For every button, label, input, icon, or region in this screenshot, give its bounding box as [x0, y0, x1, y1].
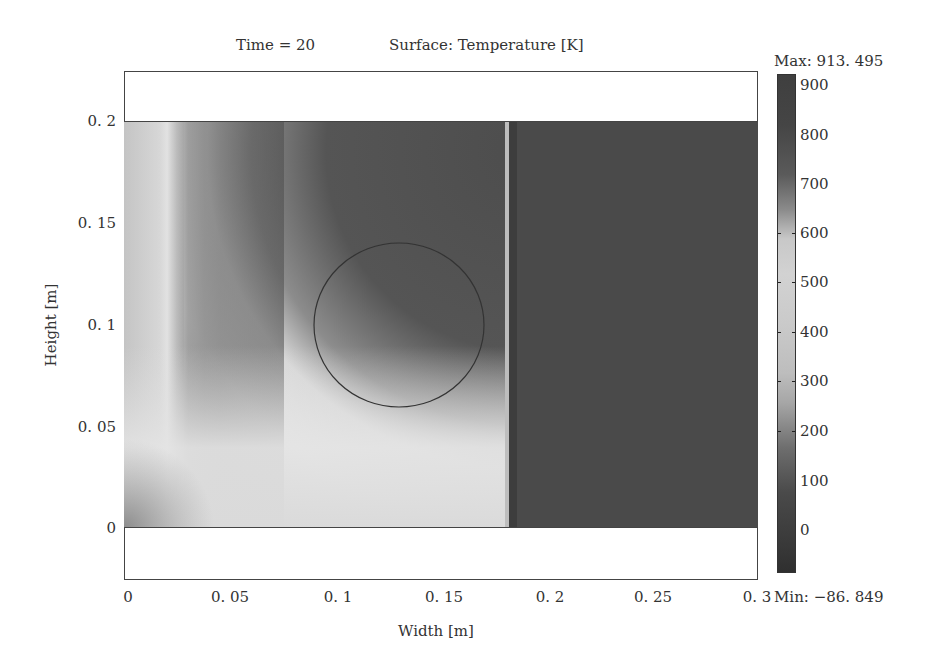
- colorbar-tick-mark: [792, 233, 795, 234]
- colorbar-tick-mark: [792, 381, 795, 382]
- x-axis-label: Width [m]: [398, 622, 474, 640]
- colorbar-tick-mark: [778, 282, 781, 283]
- colorbar-tick-mark: [778, 332, 781, 333]
- colorbar-tick-mark: [778, 381, 781, 382]
- colorbar-tick: 100: [800, 472, 829, 490]
- surface-label: Surface: Temperature [K]: [389, 36, 584, 54]
- colorbar-min-label: Min: −86. 849: [774, 588, 883, 606]
- y-axis-label: Height [m]: [42, 270, 60, 380]
- x-tick: 0: [123, 588, 133, 606]
- y-tick: 0. 2: [46, 112, 116, 130]
- y-tick: 0: [46, 519, 116, 537]
- colorbar-tick-mark: [792, 431, 795, 432]
- colorbar-tick: 500: [800, 273, 829, 291]
- colorbar: [777, 74, 796, 573]
- colorbar-tick-mark: [792, 282, 795, 283]
- colorbar-tick: 200: [800, 422, 829, 440]
- colorbar-tick: 800: [800, 126, 829, 144]
- colorbar-tick-mark: [778, 431, 781, 432]
- x-tick: 0. 3: [743, 588, 772, 606]
- colorbar-tick-mark: [792, 332, 795, 333]
- colorbar-tick: 0: [800, 521, 810, 539]
- colorbar-tick: 400: [800, 323, 829, 341]
- x-tick: 0. 1: [324, 588, 353, 606]
- colorbar-tick: 600: [800, 224, 829, 242]
- y-tick: 0. 05: [46, 418, 116, 436]
- colorbar-max-label: Max: 913. 495: [774, 52, 883, 70]
- x-tick: 0. 15: [425, 588, 463, 606]
- x-tick: 0. 2: [536, 588, 565, 606]
- colorbar-tick-mark: [778, 233, 781, 234]
- x-tick: 0. 05: [211, 588, 249, 606]
- colorbar-tick: 300: [800, 372, 829, 390]
- temperature-surface: [124, 121, 758, 528]
- time-label: Time = 20: [236, 36, 315, 54]
- colorbar-tick: 700: [800, 175, 829, 193]
- x-tick: 0. 25: [634, 588, 672, 606]
- colorbar-tick: 900: [800, 76, 829, 94]
- y-tick: 0. 15: [46, 214, 116, 232]
